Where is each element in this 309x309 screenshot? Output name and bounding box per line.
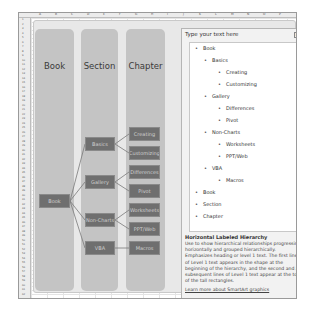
row-number[interactable]: 31 bbox=[22, 153, 25, 156]
node-chapter-customizing[interactable]: Customizing bbox=[129, 146, 160, 160]
row-number[interactable]: 24 bbox=[22, 122, 25, 125]
row-number[interactable]: 52 bbox=[22, 248, 25, 251]
row-number[interactable]: 62 bbox=[22, 293, 25, 296]
list-item[interactable]: Differences bbox=[218, 105, 254, 111]
close-icon[interactable]: ✕ bbox=[294, 32, 297, 38]
list-item[interactable]: Creating bbox=[218, 69, 247, 75]
row-number[interactable]: 35 bbox=[22, 171, 25, 174]
node-section-non-charts[interactable]: Non-Charts bbox=[85, 213, 115, 227]
list-item[interactable]: Section bbox=[195, 201, 222, 207]
list-item[interactable]: Macros bbox=[218, 177, 244, 183]
row-number[interactable]: 42 bbox=[22, 203, 25, 206]
col-header[interactable]: K bbox=[199, 12, 201, 16]
learn-more-link[interactable]: Learn more about SmartArt graphics bbox=[185, 287, 297, 292]
list-item[interactable]: VBA bbox=[204, 165, 222, 171]
row-number[interactable]: 41 bbox=[22, 198, 25, 201]
row-number[interactable]: 53 bbox=[22, 252, 25, 255]
row-number[interactable]: 28 bbox=[22, 140, 25, 143]
row-number[interactable]: 20 bbox=[22, 104, 25, 107]
col-header[interactable]: F bbox=[119, 12, 121, 16]
col-header[interactable]: L bbox=[215, 12, 217, 16]
smartart-frame[interactable]: Book Section Chapter Book Bas bbox=[33, 20, 296, 293]
row-number[interactable]: 45 bbox=[22, 216, 25, 219]
node-book[interactable]: Book bbox=[39, 194, 70, 208]
row-number[interactable]: 43 bbox=[22, 207, 25, 210]
row-number[interactable]: 23 bbox=[22, 117, 25, 120]
list-item[interactable]: Non-Charts bbox=[204, 129, 240, 135]
node-chapter-ppt-web[interactable]: PPT/Web bbox=[129, 222, 160, 236]
row-number[interactable]: 19 bbox=[22, 99, 25, 102]
col-header[interactable]: G bbox=[135, 12, 137, 16]
node-chapter-differences[interactable]: Differences bbox=[129, 165, 160, 179]
row-number[interactable]: 12 bbox=[22, 68, 25, 71]
row-number[interactable]: 27 bbox=[22, 135, 25, 138]
row-number[interactable]: 16 bbox=[22, 86, 25, 89]
list-item[interactable]: Basics bbox=[204, 57, 228, 63]
row-number[interactable]: 4 bbox=[22, 32, 24, 35]
col-header[interactable]: C bbox=[71, 12, 73, 16]
col-header[interactable]: O bbox=[263, 12, 265, 16]
list-item[interactable]: Chapter bbox=[195, 213, 223, 219]
row-number[interactable]: 9 bbox=[22, 54, 24, 57]
row-number[interactable]: 5 bbox=[22, 36, 24, 39]
row-number[interactable]: 54 bbox=[22, 257, 25, 260]
row-number[interactable]: 49 bbox=[22, 234, 25, 237]
row-number[interactable]: 58 bbox=[22, 275, 25, 278]
row-number[interactable]: 56 bbox=[22, 266, 25, 269]
row-number[interactable]: 3 bbox=[22, 27, 24, 30]
row-number[interactable]: 44 bbox=[22, 212, 25, 215]
col-header[interactable]: D bbox=[87, 12, 89, 16]
row-number[interactable]: 30 bbox=[22, 149, 25, 152]
row-number[interactable]: 13 bbox=[22, 72, 25, 75]
row-number[interactable]: 14 bbox=[22, 77, 25, 80]
row-number[interactable]: 59 bbox=[22, 279, 25, 282]
node-section-gallery[interactable]: Gallery bbox=[85, 175, 115, 189]
row-number[interactable]: 6 bbox=[22, 41, 24, 44]
col-header[interactable]: B bbox=[55, 12, 57, 16]
col-header[interactable]: N bbox=[247, 12, 249, 16]
col-header[interactable]: M bbox=[231, 12, 234, 16]
list-item[interactable]: Pivot bbox=[218, 117, 238, 123]
row-number[interactable]: 47 bbox=[22, 225, 25, 228]
row-number[interactable]: 36 bbox=[22, 176, 25, 179]
row-number[interactable]: 1 bbox=[22, 18, 24, 21]
row-number[interactable]: 22 bbox=[22, 113, 25, 116]
list-item[interactable]: Worksheets bbox=[218, 141, 255, 147]
col-header[interactable]: E bbox=[103, 12, 105, 16]
row-number[interactable]: 39 bbox=[22, 189, 25, 192]
row-number[interactable]: 7 bbox=[22, 45, 24, 48]
spreadsheet-grid[interactable]: A B C D E F G H I J K L M N O P 12345678… bbox=[18, 12, 297, 299]
node-section-vba[interactable]: VBA bbox=[85, 241, 115, 255]
list-item[interactable]: Gallery bbox=[204, 93, 230, 99]
list-item[interactable]: Book bbox=[195, 45, 215, 51]
row-number[interactable]: 33 bbox=[22, 162, 25, 165]
row-number[interactable]: 51 bbox=[22, 243, 25, 246]
list-item[interactable]: Book bbox=[195, 189, 215, 195]
row-number[interactable]: 26 bbox=[22, 131, 25, 134]
row-number[interactable]: 15 bbox=[22, 81, 25, 84]
row-number[interactable]: 60 bbox=[22, 284, 25, 287]
row-number[interactable]: 37 bbox=[22, 180, 25, 183]
row-number[interactable]: 57 bbox=[22, 270, 25, 273]
row-number[interactable]: 17 bbox=[22, 90, 25, 93]
row-header-bar[interactable]: 1234567891011121314151617181920212223242… bbox=[19, 18, 31, 298]
row-number[interactable]: 50 bbox=[22, 239, 25, 242]
node-section-basics[interactable]: Basics bbox=[85, 137, 115, 151]
node-chapter-worksheets[interactable]: Worksheets bbox=[129, 203, 160, 217]
row-number[interactable]: 8 bbox=[22, 50, 24, 53]
row-number[interactable]: 29 bbox=[22, 144, 25, 147]
row-number[interactable]: 11 bbox=[22, 63, 25, 66]
row-number[interactable]: 46 bbox=[22, 221, 25, 224]
row-number[interactable]: 32 bbox=[22, 158, 25, 161]
row-number[interactable]: 10 bbox=[22, 59, 25, 62]
row-number[interactable]: 2 bbox=[22, 23, 24, 26]
col-header[interactable]: A bbox=[39, 12, 41, 16]
row-number[interactable]: 34 bbox=[22, 167, 25, 170]
row-number[interactable]: 48 bbox=[22, 230, 25, 233]
col-header[interactable]: J bbox=[183, 12, 184, 16]
col-header[interactable]: P bbox=[279, 12, 281, 16]
row-number[interactable]: 55 bbox=[22, 261, 25, 264]
node-chapter-creating[interactable]: Creating bbox=[129, 127, 160, 141]
node-chapter-macros[interactable]: Macros bbox=[129, 241, 160, 255]
node-chapter-pivot[interactable]: Pivot bbox=[129, 184, 160, 198]
